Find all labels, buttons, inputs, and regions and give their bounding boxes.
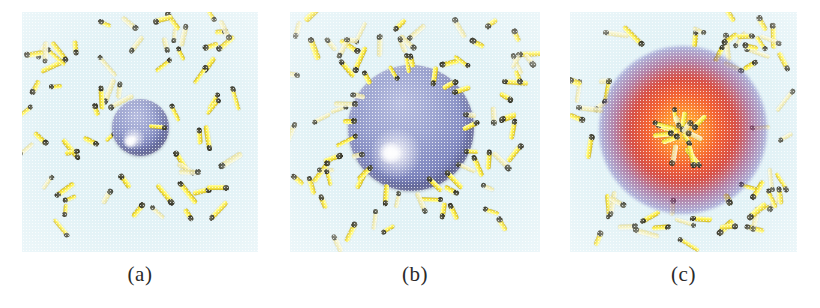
rod-head-bead — [510, 28, 518, 36]
surfactant-rod — [204, 125, 212, 149]
surfactant-rod — [415, 192, 428, 213]
rod-head-bead — [330, 234, 338, 242]
surfactant-rod — [721, 12, 736, 23]
rod-head-bead — [447, 202, 455, 210]
droplet-specular-highlight — [377, 142, 403, 164]
rod-head-bead — [619, 200, 628, 209]
rod-head-bead — [152, 17, 160, 25]
rod-head-bead — [451, 16, 459, 24]
panel-b-caption: (b) — [290, 262, 540, 287]
surfactant-rod — [129, 36, 144, 54]
rod-head-bead — [636, 40, 645, 49]
surfactant-rod — [82, 136, 98, 147]
rod-head-bead — [41, 139, 50, 148]
rod-head-bead — [468, 37, 477, 46]
surfactant-rod — [72, 40, 78, 54]
surfactant-rod — [382, 224, 396, 234]
surfactant-rod — [509, 120, 517, 140]
rod-head-bead — [575, 104, 581, 110]
rod-head-bead — [606, 78, 612, 85]
rod-head-bead — [453, 189, 461, 197]
surfactant-rod — [486, 18, 499, 29]
surfactant-rod — [482, 183, 495, 191]
rod-head-bead — [62, 212, 67, 217]
panel-a-image — [22, 12, 258, 252]
surfactant-rod — [98, 88, 104, 110]
rod-head-bead — [473, 119, 480, 126]
rod-head-bead — [349, 92, 356, 99]
surfactant-rod — [570, 113, 584, 124]
rod-head-bead — [307, 35, 315, 43]
rod-head-bead — [761, 45, 768, 52]
rod-head-bead — [690, 221, 697, 228]
rod-head-bead — [22, 151, 25, 159]
rod-head-bead — [504, 163, 513, 172]
surfactant-rod — [99, 20, 111, 28]
rod-head-bead — [172, 149, 180, 157]
surfactant-rod — [394, 193, 402, 209]
rod-head-bead — [377, 33, 384, 41]
rod-head-bead — [480, 182, 487, 189]
surfactant-rod — [43, 41, 49, 62]
rod-head-bead — [73, 49, 79, 55]
rod-head-bead — [24, 51, 31, 58]
rod-head-bead — [128, 47, 136, 55]
surfactant-rod — [161, 37, 169, 52]
rod-head-bead — [202, 44, 210, 52]
surfactant-rod — [220, 151, 244, 169]
rod-head-bead — [166, 57, 173, 64]
surfactant-rod — [193, 66, 209, 84]
figure-container: (a) (b) (c) — [0, 0, 820, 308]
rod-head-bead — [749, 192, 758, 201]
rod-head-bead — [335, 152, 343, 160]
surfactant-rod — [599, 79, 610, 85]
rod-head-bead — [409, 44, 418, 53]
rod-head-bead — [74, 147, 81, 154]
panel-c-micelle-cluster — [658, 105, 708, 155]
rod-head-bead — [149, 204, 156, 211]
surfactant-rod — [496, 217, 508, 232]
surfactant-rod — [776, 51, 789, 70]
rod-head-bead — [511, 118, 518, 125]
rod-head-bead — [380, 228, 387, 235]
rod-head-bead — [716, 228, 725, 237]
rod-head-bead — [229, 86, 236, 92]
surfactant-rod — [343, 119, 355, 124]
rod-head-bead — [494, 215, 503, 224]
surfactant-rod — [652, 225, 669, 231]
rod-head-bead — [463, 62, 470, 69]
rod-head-bead — [407, 53, 414, 60]
rod-head-bead — [464, 148, 470, 154]
surfactant-rod — [303, 12, 321, 23]
rod-head-bead — [63, 232, 71, 239]
rod-head-bead — [336, 52, 344, 60]
rod-head-bead — [372, 209, 378, 215]
rod-head-bead — [106, 103, 114, 111]
rod-head-bead — [163, 47, 170, 54]
surfactant-rod — [230, 88, 241, 110]
rod-head-bead — [755, 14, 763, 22]
surfactant-rod — [779, 132, 794, 143]
surfactant-rod — [293, 21, 302, 37]
surfactant-rod — [470, 38, 485, 49]
rod-head-bead — [491, 119, 498, 126]
surfactant-rod — [63, 204, 68, 216]
surfactant-rod — [511, 30, 521, 43]
rod-head-bead — [290, 172, 298, 180]
surfactant-rod — [116, 83, 123, 99]
surfactant-rod — [444, 185, 458, 195]
surfactant-rod — [691, 216, 712, 222]
rod-head-bead — [782, 185, 790, 193]
surfactant-rod — [407, 24, 426, 41]
rod-head-bead — [187, 215, 195, 223]
rod-head-bead — [743, 223, 750, 230]
surfactant-rod — [155, 183, 174, 205]
surfactant-rod — [207, 185, 227, 190]
rod-head-bead — [216, 45, 225, 54]
rod-head-bead — [731, 222, 738, 229]
rod-head-bead — [130, 23, 139, 32]
rod-head-bead — [92, 141, 100, 149]
rod-head-bead — [502, 78, 508, 84]
rod-head-bead — [210, 16, 217, 23]
surfactant-rod — [499, 91, 513, 102]
